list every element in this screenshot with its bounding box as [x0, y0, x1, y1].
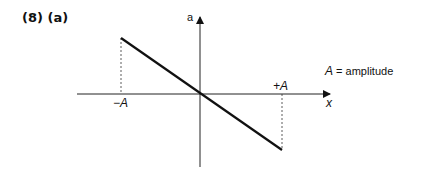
pos-amplitude-tick: +A: [273, 79, 288, 93]
x-axis-label: x: [326, 96, 332, 110]
y-axis-label: a: [187, 11, 193, 23]
legend-text: = amplitude: [333, 65, 393, 77]
neg-amplitude-tick: −A: [113, 96, 128, 110]
legend-symbol: A: [325, 64, 333, 78]
legend: A = amplitude: [325, 64, 393, 78]
acceleration-displacement-graph: [0, 0, 426, 174]
